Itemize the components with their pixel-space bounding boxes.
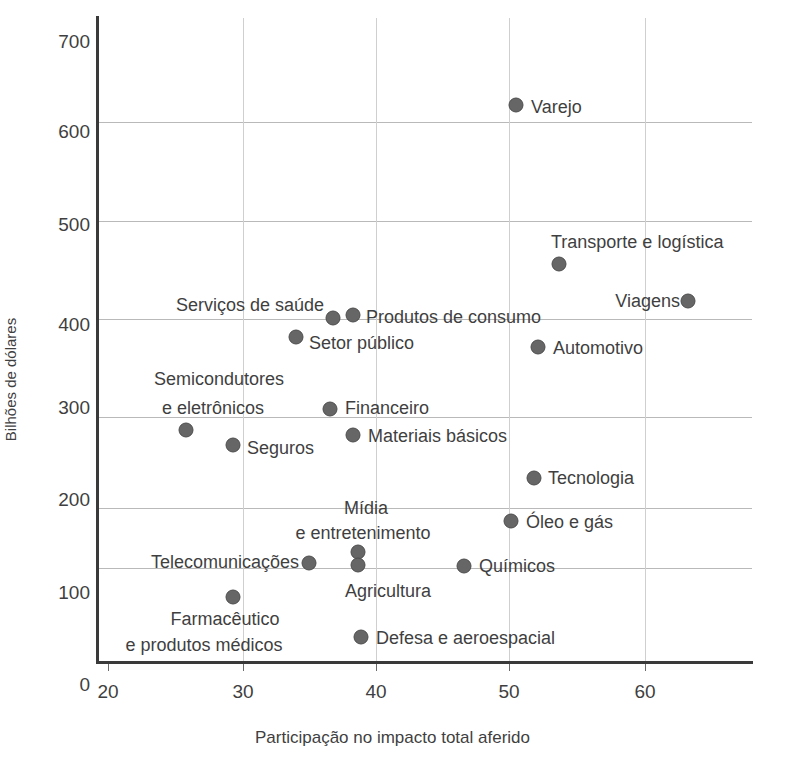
- x-tick-mark-60: [645, 664, 646, 671]
- gridline-y-200: [97, 508, 752, 509]
- x-tick-mark-40: [376, 664, 377, 671]
- x-tick-mark-30: [243, 664, 244, 671]
- x-axis-line: [96, 661, 753, 664]
- label-viagens: Viagens: [615, 291, 680, 312]
- gridline-x-60: [645, 18, 646, 661]
- y-tick-500: 500: [30, 214, 90, 236]
- point-transporte-e-logistica[interactable]: [552, 257, 567, 272]
- x-tick-20: 20: [97, 681, 118, 703]
- point-oleo-e-gas[interactable]: [504, 514, 519, 529]
- point-financeiro[interactable]: [323, 402, 338, 417]
- y-axis-title-text: Bilhões de dólares: [3, 317, 20, 440]
- point-varejo[interactable]: [509, 98, 524, 113]
- x-tick-40: 40: [365, 681, 386, 703]
- y-tick-0: 0: [30, 674, 90, 696]
- gridline-y-600: [97, 122, 752, 123]
- label-setor-publico: Setor público: [309, 333, 414, 354]
- x-tick-50: 50: [498, 681, 519, 703]
- label-farmaceutico-line1: Farmacêutico: [170, 609, 279, 630]
- label-materiais-basicos: Materiais básicos: [368, 426, 507, 447]
- label-quimicos: Químicos: [479, 556, 555, 577]
- point-farmaceutico-e-produtos-medicos[interactable]: [226, 590, 241, 605]
- gridline-y-500: [97, 221, 752, 222]
- point-automotivo[interactable]: [531, 340, 546, 355]
- y-tick-200: 200: [30, 489, 90, 511]
- point-produtos-de-consumo[interactable]: [346, 308, 361, 323]
- label-agricultura: Agricultura: [345, 581, 431, 602]
- y-axis-title: Bilhões de dólares: [0, 0, 24, 758]
- point-semicondutores-e-eletronicos[interactable]: [179, 423, 194, 438]
- label-servicos-de-saude: Serviços de saúde: [176, 295, 324, 316]
- label-telecomunicacoes: Telecomunicações: [151, 552, 299, 573]
- y-axis-line: [96, 16, 99, 663]
- point-tecnologia[interactable]: [527, 471, 542, 486]
- label-defesa-e-aeroespacial: Defesa e aeroespacial: [376, 628, 555, 649]
- y-tick-100: 100: [30, 582, 90, 604]
- point-setor-publico[interactable]: [289, 330, 304, 345]
- label-transporte-e-logistica: Transporte e logística: [551, 232, 723, 253]
- x-tick-mark-20: [108, 664, 109, 671]
- label-financeiro: Financeiro: [345, 398, 429, 419]
- point-agricultura[interactable]: [351, 558, 366, 573]
- point-defesa-e-aeroespacial[interactable]: [354, 630, 369, 645]
- label-farmaceutico-line2: e produtos médicos: [125, 635, 282, 656]
- label-automotivo: Automotivo: [553, 338, 643, 359]
- label-semicondutores-line1: Semicondutores: [154, 369, 284, 390]
- y-axis-ticks: 700 600 500 400 300 200 100 0: [16, 0, 90, 758]
- label-midia-line2: e entretenimento: [295, 523, 430, 544]
- point-materiais-basicos[interactable]: [346, 428, 361, 443]
- x-tick-60: 60: [634, 681, 655, 703]
- label-midia-line1: Mídia: [344, 498, 388, 519]
- label-tecnologia: Tecnologia: [548, 468, 634, 489]
- point-seguros[interactable]: [226, 438, 241, 453]
- x-tick-30: 30: [232, 681, 253, 703]
- x-axis-title: Participação no impacto total aferido: [0, 728, 785, 748]
- scatter-chart-figure: 700 600 500 400 300 200 100 0 20 30 40 5…: [0, 0, 785, 758]
- point-quimicos[interactable]: [457, 559, 472, 574]
- point-servicos-de-saude[interactable]: [326, 311, 341, 326]
- y-tick-600: 600: [30, 121, 90, 143]
- y-tick-400: 400: [30, 314, 90, 336]
- label-produtos-de-consumo: Produtos de consumo: [366, 307, 541, 328]
- point-telecomunicacoes[interactable]: [302, 556, 317, 571]
- y-tick-700: 700: [30, 31, 90, 53]
- label-varejo: Varejo: [531, 97, 582, 118]
- label-semicondutores-line2: e eletrônicos: [162, 398, 264, 419]
- point-viagens[interactable]: [681, 294, 696, 309]
- label-seguros: Seguros: [247, 438, 314, 459]
- label-oleo-e-gas: Óleo e gás: [526, 512, 613, 533]
- y-tick-300: 300: [30, 397, 90, 419]
- x-tick-mark-50: [509, 664, 510, 671]
